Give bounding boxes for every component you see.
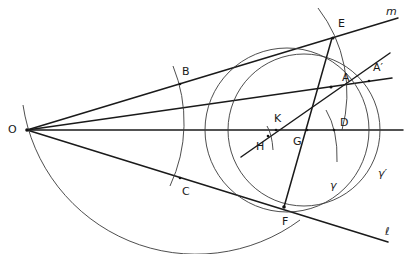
point-O (25, 128, 29, 132)
point-E (332, 37, 335, 40)
label-H: H (256, 141, 264, 152)
label-C: C (182, 186, 190, 197)
label-A-prime: A′ (373, 62, 383, 73)
construction-drawing (0, 0, 411, 254)
label-l: ℓ (385, 226, 390, 237)
arc-large (23, 105, 300, 254)
label-m: m (386, 6, 397, 17)
point-C (179, 177, 182, 180)
point-H (267, 135, 270, 138)
point-G (306, 129, 309, 132)
label-O: O (8, 124, 17, 135)
label-B: B (182, 66, 190, 77)
point-F (282, 205, 286, 209)
point-A-prime (368, 80, 371, 83)
arc-D (326, 110, 337, 162)
label-K: K (274, 113, 281, 124)
point-B (179, 83, 182, 86)
label-E: E (338, 18, 345, 29)
point-K (275, 129, 278, 132)
label-D: D (340, 117, 348, 128)
point-A (330, 86, 333, 89)
label-gamma: γ (330, 180, 337, 191)
diagram-canvas: O B C E F A A′ K H G D γ γ′ m ℓ (0, 0, 411, 254)
label-F: F (282, 216, 288, 227)
point-D (333, 129, 336, 132)
label-G: G (293, 136, 302, 147)
label-A: A (342, 72, 350, 83)
label-gamma-prime: γ′ (378, 168, 387, 179)
